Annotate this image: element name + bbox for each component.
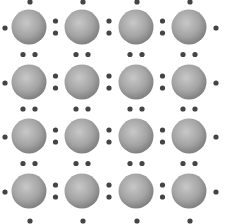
electron-dot (180, 52, 185, 57)
electron-dot (2, 189, 7, 194)
atom-sphere (119, 119, 154, 154)
electron-dot (53, 139, 58, 144)
electron-dot (27, 0, 32, 5)
electron-dot (160, 30, 165, 35)
electron-dot (53, 85, 58, 90)
atom-sphere (12, 174, 47, 209)
electron-dot (53, 182, 58, 187)
electron-dot (2, 134, 7, 139)
electron-dot (106, 18, 111, 23)
electron-dot (134, 218, 139, 223)
electron-dot (106, 85, 111, 90)
electron-dot (2, 25, 7, 30)
electron-dot (139, 161, 144, 166)
electron-dot (160, 194, 165, 199)
electron-dot (73, 161, 78, 166)
electron-dot (187, 218, 192, 223)
electron-dot (160, 127, 165, 132)
electron-dot (213, 189, 218, 194)
electron-dot (32, 161, 37, 166)
electron-dot (80, 218, 85, 223)
electron-dot (160, 139, 165, 144)
atom-sphere (65, 119, 100, 154)
electron-dot (20, 161, 25, 166)
electron-dot (32, 106, 37, 111)
electron-dot (85, 52, 90, 57)
electron-dot (160, 73, 165, 78)
electron-dot (2, 80, 7, 85)
atom-sphere (172, 119, 207, 154)
electron-dot (192, 52, 197, 57)
atom-sphere (119, 174, 154, 209)
electron-dot (53, 73, 58, 78)
electron-dot (53, 18, 58, 23)
atom-sphere (65, 10, 100, 45)
electron-dot (180, 161, 185, 166)
electron-dot (180, 106, 185, 111)
electron-dot (73, 106, 78, 111)
electron-dot (20, 52, 25, 57)
electron-dot (80, 0, 85, 5)
lattice-diagram (0, 0, 226, 224)
electron-dot (106, 73, 111, 78)
electron-dot (139, 52, 144, 57)
atom-sphere (12, 65, 47, 100)
atom-sphere (12, 119, 47, 154)
electron-dot (160, 18, 165, 23)
atom-sphere (119, 65, 154, 100)
atom-sphere (12, 10, 47, 45)
atom-sphere (65, 174, 100, 209)
atom-sphere (172, 65, 207, 100)
electron-dot (160, 182, 165, 187)
electron-dot (85, 161, 90, 166)
electron-dot (160, 85, 165, 90)
atom-sphere (65, 65, 100, 100)
atom-sphere (172, 174, 207, 209)
electron-dot (213, 25, 218, 30)
electron-dot (106, 127, 111, 132)
electron-dot (127, 106, 132, 111)
electron-dot (73, 52, 78, 57)
electron-dot (32, 52, 37, 57)
atom-sphere (172, 10, 207, 45)
electron-dot (106, 139, 111, 144)
electron-dot (213, 134, 218, 139)
electron-dot (53, 194, 58, 199)
electron-dot (106, 182, 111, 187)
electron-dot (20, 106, 25, 111)
electron-dot (192, 106, 197, 111)
electron-dot (139, 106, 144, 111)
electron-dot (27, 218, 32, 223)
electron-dot (187, 0, 192, 5)
electron-dot (127, 161, 132, 166)
electron-dot (134, 0, 139, 5)
atom-sphere (119, 10, 154, 45)
electron-dot (192, 161, 197, 166)
electron-dot (106, 194, 111, 199)
electron-dot (53, 127, 58, 132)
electron-dot (85, 106, 90, 111)
electron-dot (127, 52, 132, 57)
atom-spheres (12, 10, 207, 209)
electron-dot (213, 80, 218, 85)
electron-dot (53, 30, 58, 35)
electron-dot (106, 30, 111, 35)
